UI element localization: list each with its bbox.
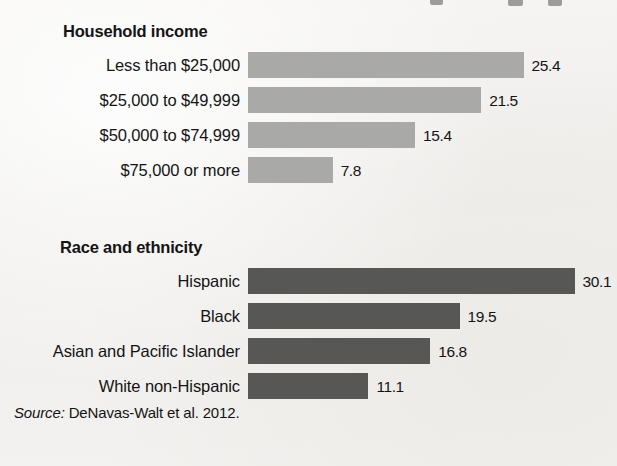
bar — [248, 52, 524, 78]
bar-value-label: 15.4 — [423, 122, 452, 148]
bar-value-label: 7.8 — [341, 157, 361, 183]
bar — [248, 122, 415, 148]
bar — [248, 268, 575, 294]
bar-category-label: Less than $25,000 — [0, 52, 240, 78]
bar-value-label: 16.8 — [438, 338, 467, 364]
bar-category-label: Asian and Pacific Islander — [0, 338, 240, 364]
bar-value-label: 11.1 — [376, 373, 403, 399]
bar-category-label: Black — [0, 303, 240, 329]
bar — [248, 373, 368, 399]
bar-value-label: 30.1 — [583, 268, 612, 294]
bar-category-label: $50,000 to $74,999 — [0, 122, 240, 148]
bar — [248, 338, 430, 364]
bar-value-label: 25.4 — [532, 52, 561, 78]
bar-category-label: Hispanic — [0, 268, 240, 294]
source-note: Source: DeNavas-Walt et al. 2012. — [14, 404, 239, 421]
bar — [248, 157, 333, 183]
bar — [248, 303, 460, 329]
chart-row: Less than $25,00025.4 — [0, 52, 617, 78]
chart-row: Asian and Pacific Islander16.8 — [0, 338, 617, 364]
chart-row: $25,000 to $49,99921.5 — [0, 87, 617, 113]
bar-category-label: $75,000 or more — [0, 157, 240, 183]
group-heading: Household income — [63, 22, 207, 41]
bar-category-label: White non-Hispanic — [0, 373, 240, 399]
chart-row: $50,000 to $74,99915.4 — [0, 122, 617, 148]
source-text: DeNavas-Walt et al. 2012. — [69, 404, 240, 421]
bar — [248, 87, 481, 113]
bar-value-label: 21.5 — [489, 87, 518, 113]
chart-row: White non-Hispanic11.1 — [0, 373, 617, 399]
group-heading: Race and ethnicity — [60, 238, 202, 257]
bar-category-label: $25,000 to $49,999 — [0, 87, 240, 113]
chart-row: $75,000 or more7.8 — [0, 157, 617, 183]
bar-chart: Household incomeLess than $25,00025.4$25… — [0, 0, 617, 466]
bar-value-label: 19.5 — [468, 303, 497, 329]
chart-row: Hispanic30.1 — [0, 268, 617, 294]
source-label: Source: — [14, 404, 65, 421]
chart-row: Black19.5 — [0, 303, 617, 329]
